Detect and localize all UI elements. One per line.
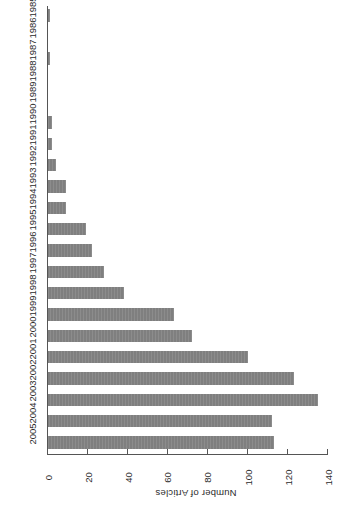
value-axis-tick-label-text: 120 [282,470,293,486]
value-axis-tick-label-text: 20 [83,472,94,483]
bar[interactable] [48,159,56,171]
bar[interactable] [48,138,52,150]
bar-row[interactable]: 1990 [0,111,345,132]
bar-row[interactable]: 2003 [0,389,345,410]
value-axis-tick-label-text: 40 [123,472,134,483]
rotated-figure-container: Number of Articles 020406080100120140 20… [0,0,345,513]
bar[interactable] [48,287,124,299]
plot-area: 2005200420032002200120001999199819971996… [0,0,345,454]
category-axis-label: 1989 [3,97,43,108]
bar-row[interactable]: 1991 [0,133,345,154]
category-axis-label: 1990 [3,119,43,130]
bar-row[interactable]: 1996 [0,239,345,260]
bar-row[interactable]: 1993 [0,175,345,196]
category-axis-label: 2003 [3,396,43,407]
bar-row[interactable]: 1986 [0,26,345,47]
category-axis-label: 1986 [3,33,43,44]
value-axis-tick-label: 80 [190,472,226,483]
value-axis-tick-label-text: 80 [203,472,214,483]
bar-row[interactable]: 1988 [0,69,345,90]
bar[interactable] [48,116,52,128]
category-axis-label: 1996 [3,247,43,258]
value-axis-tick-label: 120 [270,472,306,483]
bar[interactable] [48,330,192,342]
value-axis-tick-label: 40 [110,472,146,483]
bar[interactable] [48,244,92,256]
value-axis-tick-label-text: 100 [242,470,253,486]
value-axis-tick-label: 60 [150,472,186,483]
value-axis-tick-label: 0 [30,472,66,483]
value-axis-tick-label: 20 [70,472,106,483]
bar-row[interactable]: 1987 [0,47,345,68]
bar-row[interactable]: 2000 [0,325,345,346]
category-axis-label: 2001 [3,354,43,365]
value-axis-tick-label-text: 0 [43,475,54,480]
bar[interactable] [48,52,50,64]
bar[interactable] [48,202,66,214]
value-axis-tick-label: 140 [310,472,345,483]
category-axis-label: 1998 [3,290,43,301]
bar[interactable] [48,351,248,363]
bar-row[interactable]: 2005 [0,432,345,453]
value-axis-tick-label-text: 140 [322,470,333,486]
bar[interactable] [48,266,104,278]
category-axis-label: 1994 [3,204,43,215]
bar[interactable] [48,180,66,192]
category-axis-label: 1992 [3,161,43,172]
bar-row[interactable]: 2004 [0,410,345,431]
bar[interactable] [48,308,174,320]
category-axis-label: 1991 [3,140,43,151]
category-axis-label: 1993 [3,183,43,194]
value-axis-tick-label-text: 60 [163,472,174,483]
bar[interactable] [48,394,317,406]
category-axis-label: 2005 [3,439,43,450]
bar[interactable] [48,223,86,235]
bar-row[interactable]: 1989 [0,90,345,111]
category-axis-label: 1988 [3,76,43,87]
category-axis-label-text: 1985 [27,0,38,18]
category-axis-label: 2002 [3,375,43,386]
bar-row[interactable]: 1992 [0,154,345,175]
category-axis-label: 1995 [3,226,43,237]
bar[interactable] [48,372,293,384]
bar-row[interactable]: 1997 [0,261,345,282]
value-axis-title: Number of Articles [71,488,321,499]
bar-row[interactable]: 1999 [0,304,345,325]
category-axis-label: 2004 [3,418,43,429]
bar-row[interactable]: 1995 [0,218,345,239]
bar-row[interactable]: 1985 [0,5,345,26]
bar-row[interactable]: 1998 [0,282,345,303]
value-axis-tick-label: 100 [230,472,266,483]
category-axis-label: 1997 [3,268,43,279]
bar[interactable] [48,415,272,427]
bar-row[interactable]: 2002 [0,368,345,389]
bar-row[interactable]: 1994 [0,197,345,218]
category-axis-label: 2000 [3,332,43,343]
bar-chart-figure: Number of Articles 020406080100120140 20… [0,0,345,513]
bar[interactable] [48,436,274,448]
bar[interactable] [48,9,50,21]
category-axis-label: 1987 [3,55,43,66]
category-axis-label: 1999 [3,311,43,322]
category-axis-label: 1985 [3,12,43,23]
bar-row[interactable]: 2001 [0,346,345,367]
